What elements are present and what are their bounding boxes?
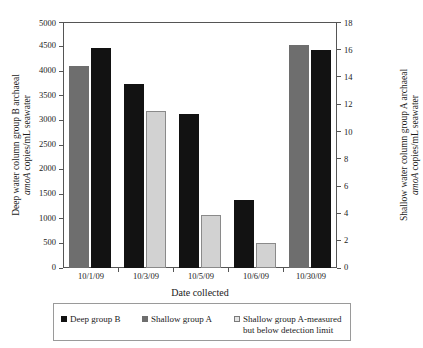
y-tick-mark	[59, 120, 63, 121]
legend-label-deep-group-b: Deep group B	[70, 314, 121, 325]
legend-swatch-icon-shallow-group-a	[142, 316, 148, 322]
bar-10-5-09-shallow-group-a-below-limit	[201, 215, 221, 268]
y2-tick-mark	[337, 22, 341, 23]
bar-10-6-09-shallow-group-a-below-limit	[256, 243, 276, 268]
y2-tick-mark	[337, 186, 341, 187]
bar-10-3-09-shallow-group-a-below-limit	[146, 111, 166, 268]
y-axis-title-line1: Deep water column group B archaeal	[11, 74, 22, 216]
y2-axis-title-line1: Shallow water column group A archaeal	[399, 69, 410, 221]
y2-axis-tick-6: 6	[344, 182, 370, 191]
x-axis-title: Date collected	[63, 287, 337, 298]
y2-axis-tick-8: 8	[344, 155, 370, 164]
y2-axis-tick-14: 14	[344, 73, 370, 82]
y-tick-mark	[59, 169, 63, 170]
y2-tick-mark	[337, 213, 341, 214]
legend-item-shallow-group-a: Shallow group A	[142, 314, 212, 325]
y2-axis-tick-12: 12	[344, 100, 370, 109]
legend-label-below-limit-line1: Shallow group A-measured	[243, 314, 341, 324]
legend-swatch-icon-deep-group-b	[61, 316, 67, 322]
plot-top-border	[63, 22, 337, 23]
x-axis-label-10-30-09: 10/30/09	[283, 271, 339, 281]
y-axis-title: Deep water column group B archaeal amoA …	[9, 22, 35, 268]
y-tick-mark	[59, 268, 63, 269]
x-axis-label-10-3-09: 10/3/09	[118, 271, 174, 281]
legend-label-shallow-group-a: Shallow group A	[151, 314, 212, 325]
y-tick-mark	[59, 145, 63, 146]
x-axis-label-10-1-09: 10/1/09	[63, 271, 119, 281]
y2-tick-mark	[337, 158, 341, 159]
y-axis-title-gene: amoA	[22, 173, 32, 195]
y2-axis-tick-0: 0	[344, 263, 370, 272]
bar-10-1-09-deep-group-b	[91, 48, 111, 268]
y2-tick-mark	[337, 268, 341, 269]
y2-tick-mark	[337, 49, 341, 50]
y-tick-mark	[59, 95, 63, 96]
y2-axis-title-gene: amoA	[410, 173, 420, 195]
y-tick-mark	[59, 194, 63, 195]
y2-axis-title-units: copies/mL seawater	[410, 95, 420, 173]
y-tick-mark	[59, 218, 63, 219]
legend-label-below-limit-line2: but below detection limit	[243, 325, 341, 336]
y2-axis-tick-10: 10	[344, 128, 370, 137]
bar-10-30-09-deep-group-b	[311, 50, 331, 268]
chart-legend: Deep group B Shallow group A Shallow gro…	[53, 303, 351, 341]
bar-10-1-09-shallow-group-a	[69, 66, 89, 268]
y2-axis-title-line2: amoA copies/mL seawater	[410, 95, 421, 195]
legend-item-deep-group-b: Deep group B	[61, 314, 121, 325]
y2-axis-tick-16: 16	[344, 46, 370, 55]
bar-10-6-09-deep-group-b	[234, 200, 254, 268]
bar-10-5-09-deep-group-b	[179, 114, 199, 268]
bar-10-30-09-shallow-group-a	[289, 45, 309, 268]
y2-axis-tick-18: 18	[344, 19, 370, 28]
x-axis-label-10-6-09: 10/6/09	[228, 271, 284, 281]
legend-swatch-icon-below-limit	[234, 316, 240, 322]
y-axis-title-units: copies/mL seawater	[22, 95, 32, 173]
y2-axis-title: Shallow water column group A archaeal am…	[397, 22, 423, 268]
y-tick-mark	[59, 46, 63, 47]
y2-tick-mark	[337, 240, 341, 241]
y-tick-mark	[59, 243, 63, 244]
y-axis-title-line2: amoA copies/mL seawater	[22, 95, 33, 195]
x-axis-label-10-5-09: 10/5/09	[173, 271, 229, 281]
y-tick-mark	[59, 22, 63, 23]
y2-axis-tick-2: 2	[344, 236, 370, 245]
y2-tick-mark	[337, 76, 341, 77]
y2-tick-mark	[337, 131, 341, 132]
bar-10-3-09-deep-group-b	[124, 84, 144, 269]
y2-tick-mark	[337, 104, 341, 105]
legend-label-below-limit: Shallow group A-measuredbut below detect…	[243, 314, 341, 336]
legend-item-shallow-group-a-below-limit: Shallow group A-measuredbut below detect…	[234, 314, 341, 336]
y-tick-mark	[59, 71, 63, 72]
y2-axis-tick-4: 4	[344, 209, 370, 218]
